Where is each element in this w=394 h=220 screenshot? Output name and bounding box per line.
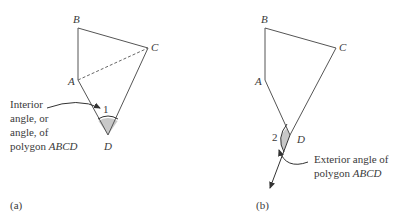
vertex-a-label: A xyxy=(255,75,262,88)
arrow-icon xyxy=(47,103,100,109)
annotation-line: angle, or xyxy=(10,112,48,125)
vertex-d-label: D xyxy=(104,140,112,153)
annotation-text: polygon xyxy=(314,167,353,179)
polygon-a xyxy=(47,28,148,135)
vertex-d-label: D xyxy=(297,133,305,146)
angle-number: 1 xyxy=(103,103,109,116)
caption-b: (b) xyxy=(256,199,269,212)
diagram-canvas xyxy=(0,0,394,220)
angle-number: 2 xyxy=(272,131,278,144)
vertex-b-label: B xyxy=(261,13,268,26)
diagonal-ac xyxy=(78,48,148,80)
vertex-a-label: A xyxy=(68,75,75,88)
vertex-b-label: B xyxy=(73,13,80,26)
annotation-line: polygon ABCD xyxy=(10,140,78,153)
annotation-line: Interior xyxy=(10,98,43,111)
annotation-line: polygon ABCD xyxy=(314,167,382,180)
caption-a: (a) xyxy=(10,199,22,212)
polygon-name: ABCD xyxy=(49,140,78,152)
vertex-c-label: C xyxy=(339,41,346,54)
annotation-text: polygon xyxy=(10,140,49,152)
annotation-line: Exterior angle of xyxy=(314,153,389,166)
polygon-name: ABCD xyxy=(353,167,382,179)
vertex-c-label: C xyxy=(151,41,158,54)
annotation-line: angle, of xyxy=(10,126,48,139)
